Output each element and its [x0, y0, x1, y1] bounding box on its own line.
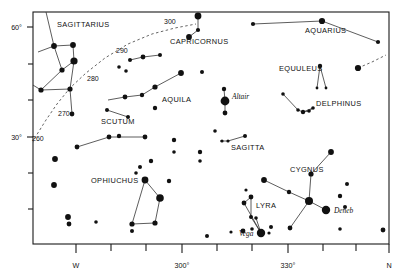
- star: [319, 18, 325, 24]
- ecliptic-degree-label: 260: [32, 135, 44, 142]
- star: [152, 84, 157, 89]
- star: [376, 40, 380, 44]
- star: [59, 67, 64, 72]
- star: [221, 97, 230, 106]
- star: [178, 70, 184, 76]
- star: [223, 111, 228, 116]
- star: [325, 87, 328, 90]
- star: [38, 87, 43, 92]
- star-name-label: Vega: [239, 229, 254, 238]
- star: [152, 220, 157, 225]
- star: [243, 134, 247, 138]
- star: [311, 106, 315, 110]
- star: [213, 129, 217, 133]
- star: [134, 171, 138, 175]
- constellation-label: EQUULEUS: [279, 64, 322, 73]
- star: [107, 135, 112, 140]
- x-axis-label-w: W: [73, 261, 80, 270]
- star: [288, 226, 293, 231]
- x-axis-label-300: 300°: [175, 261, 190, 270]
- star: [143, 135, 148, 140]
- star: [67, 86, 72, 91]
- star: [338, 194, 342, 198]
- star: [142, 177, 149, 184]
- star: [153, 106, 157, 110]
- star: [261, 177, 267, 183]
- star: [200, 70, 204, 74]
- star: [128, 58, 132, 62]
- star: [198, 150, 202, 154]
- x-axis-label-330: 330°: [281, 261, 296, 270]
- star: [267, 231, 270, 234]
- star: [141, 55, 146, 60]
- ecliptic-degree-label: 280: [87, 75, 99, 82]
- constellation-label: OPHIUCHUS: [91, 176, 139, 185]
- star: [322, 206, 330, 214]
- star: [52, 156, 58, 162]
- star: [229, 230, 232, 233]
- star: [75, 145, 80, 150]
- star: [167, 179, 171, 183]
- star: [301, 110, 305, 114]
- star: [70, 42, 76, 48]
- star: [269, 225, 273, 229]
- star: [196, 28, 200, 32]
- constellation-label: SAGITTARIUS: [57, 20, 110, 29]
- ecliptic-degree-label: 270: [58, 110, 70, 117]
- star: [296, 108, 300, 112]
- ecliptic-degree-label: 300: [164, 18, 176, 25]
- star: [316, 87, 319, 90]
- star: [124, 69, 128, 73]
- star: [345, 182, 349, 186]
- star: [129, 221, 134, 226]
- constellation-label: SCUTUM: [101, 117, 135, 126]
- star: [251, 22, 255, 26]
- star: [355, 65, 361, 71]
- star: [130, 229, 134, 233]
- star: [244, 188, 247, 191]
- star: [242, 201, 247, 206]
- star: [51, 43, 57, 49]
- constellation-label: DELPHINUS: [316, 99, 361, 108]
- star: [70, 112, 75, 117]
- star: [172, 150, 176, 154]
- star: [138, 165, 142, 169]
- star: [156, 194, 164, 202]
- star: [287, 190, 291, 194]
- constellation-label: LYRA: [256, 201, 276, 210]
- star: [149, 159, 153, 163]
- star: [222, 87, 226, 91]
- x-axis-label-n: N: [386, 261, 391, 270]
- constellation-label: CYGNUS: [290, 165, 324, 174]
- star: [94, 220, 98, 224]
- ecliptic-degree-label: 290: [116, 47, 128, 54]
- constellation-label: AQUILA: [162, 95, 191, 104]
- star: [105, 108, 109, 112]
- star: [249, 215, 253, 219]
- star: [51, 182, 57, 188]
- star: [195, 13, 202, 20]
- star: [117, 134, 121, 138]
- constellation-label: SAGITTA: [231, 143, 265, 152]
- star: [70, 57, 77, 64]
- star: [226, 139, 229, 142]
- star: [338, 227, 342, 231]
- star-name-label: Altair: [231, 92, 249, 101]
- star: [305, 197, 313, 205]
- star: [328, 149, 334, 155]
- star: [123, 95, 128, 100]
- y-axis-label-30: 30°: [11, 133, 22, 142]
- star-chart-svg: 60° 30° W 300° 330° N 260270280290300SAG…: [0, 0, 409, 276]
- star: [140, 93, 144, 97]
- star: [117, 65, 121, 69]
- star-name-label: Deneb: [333, 206, 354, 215]
- star: [158, 53, 162, 57]
- y-axis-label-60: 60°: [11, 23, 22, 32]
- star: [249, 195, 254, 200]
- star: [257, 229, 265, 237]
- constellation-label: CAPRICORNUS: [170, 37, 228, 46]
- star: [254, 216, 258, 220]
- star: [381, 228, 386, 233]
- star: [205, 234, 209, 238]
- star: [67, 222, 72, 227]
